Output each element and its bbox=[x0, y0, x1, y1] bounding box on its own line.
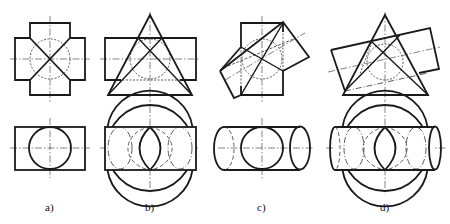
intersection-line-2 bbox=[108, 38, 162, 95]
cylinder-fill bbox=[105, 127, 196, 170]
panel-d-front-view bbox=[328, 12, 440, 102]
cylinder-fill bbox=[335, 127, 435, 170]
panel-a-side-view bbox=[10, 118, 90, 178]
cylinder-left-end-hidden bbox=[224, 127, 234, 170]
panel-label-a: a) bbox=[45, 201, 54, 214]
panel-a-front-view bbox=[10, 16, 90, 102]
panel-c-front-view bbox=[220, 16, 309, 102]
hidden-line-3 bbox=[345, 73, 428, 91]
inclined-cylinder-outline-left bbox=[331, 50, 345, 91]
panel-d-top-view bbox=[326, 91, 446, 207]
panel-c-top-view bbox=[214, 118, 314, 180]
panel-b-front-view bbox=[100, 12, 200, 102]
panel-b: b) bbox=[100, 12, 200, 214]
panel-d: d) bbox=[326, 12, 446, 214]
intersection-line-1 bbox=[372, 42, 428, 95]
inclined-edge bbox=[220, 47, 241, 71]
inclined-centerline bbox=[225, 33, 305, 80]
cylinder-left-end bbox=[330, 127, 335, 170]
technical-drawing: a) b) bbox=[0, 0, 450, 224]
panel-c: c) bbox=[214, 16, 314, 214]
panel-b-top-view bbox=[100, 91, 200, 207]
intersection-line-1 bbox=[138, 38, 192, 95]
cylinder-left-end-visible bbox=[214, 127, 224, 170]
panel-a: a) bbox=[10, 16, 90, 214]
panel-label-c: c) bbox=[257, 201, 266, 214]
panel-label-d: d) bbox=[380, 201, 390, 214]
panel-label-b: b) bbox=[145, 201, 155, 214]
